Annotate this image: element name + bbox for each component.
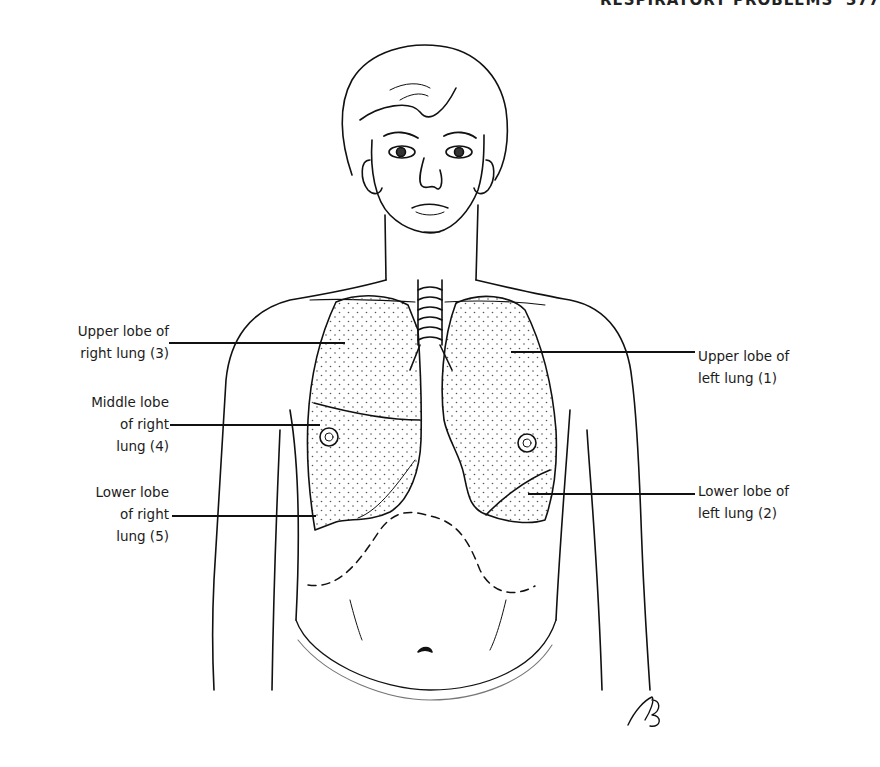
lungs [307,280,556,530]
signature [628,697,659,726]
leader-lines [169,343,695,516]
label-lower-lobe-right-lung: Lower lobe of right lung (5) [95,481,169,547]
right-lung [307,296,421,530]
label-upper-lobe-left-lung: Upper lobe of left lung (1) [698,345,789,389]
neck [385,205,478,280]
diaphragm-line [308,513,535,593]
label-middle-lobe-right-lung: Middle lobe of right lung (4) [91,391,169,457]
label-upper-lobe-right-lung: Upper lobe of right lung (3) [78,320,169,364]
left-lung [442,296,556,522]
left-nipple [518,434,536,452]
head [342,45,507,233]
label-lower-lobe-left-lung: Lower lobe of left lung (2) [698,480,789,524]
right-nipple [320,428,338,446]
